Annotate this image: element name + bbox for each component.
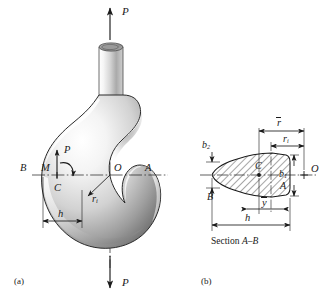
label-mean-radius-sym: r <box>277 118 281 129</box>
label-width-top-b: b2 <box>202 140 210 151</box>
section-caption-prefix: Section <box>211 236 242 246</box>
label-centroid-distance-b: y <box>262 198 267 209</box>
section-centroid-dot <box>257 173 261 177</box>
label-center-of-curvature-b: O <box>311 164 319 175</box>
label-width-top-sub: 2 <box>207 143 210 150</box>
label-depth-a: h <box>58 209 63 220</box>
label-centroid-b: C <box>255 161 262 171</box>
hook-shank <box>99 47 123 96</box>
diagram-svg <box>0 0 328 306</box>
section-caption-name: A–B <box>242 236 258 246</box>
label-depth-b: h <box>245 213 250 224</box>
label-point-a-b: A <box>280 181 286 191</box>
label-centroid-distance-sym: y <box>262 198 267 209</box>
label-point-b-a: B <box>20 163 26 174</box>
hook-body <box>42 95 161 248</box>
label-mean-radius-b: r <box>277 118 281 129</box>
label-point-a-a: A <box>145 163 151 174</box>
label-inner-radius-a: ri <box>92 194 98 205</box>
label-centroid-a: C <box>54 183 61 194</box>
label-point-b-b: B <box>207 192 213 202</box>
panel-label-a: (a) <box>14 277 24 286</box>
label-moment: M <box>41 163 50 174</box>
label-inner-radius-b: ri <box>283 134 289 145</box>
label-inner-radius-b-sub: i <box>287 137 289 144</box>
label-inner-radius-a-sub: i <box>96 197 98 204</box>
label-center-of-curvature-a: O <box>114 163 122 174</box>
label-width-bottom-sub: 1 <box>284 172 287 179</box>
label-width-bottom-b: b1 <box>279 169 287 180</box>
figure-canvas: P P P M C O B A ri h (a) b2 b1 B A C O r… <box>0 0 328 306</box>
label-load-internal: P <box>64 145 70 156</box>
panel-b-section-drawing <box>200 128 316 231</box>
panel-a-hook-drawing <box>32 8 168 288</box>
section-caption: Section A–B <box>211 237 258 247</box>
label-load-bottom: P <box>122 277 129 288</box>
label-load-top: P <box>122 6 129 17</box>
hook-shank-top-bore <box>102 44 119 49</box>
panel-label-b: (b) <box>201 277 212 286</box>
